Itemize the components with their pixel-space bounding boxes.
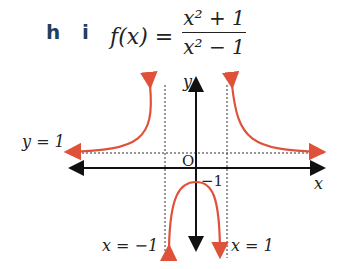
curve-right — [232, 85, 322, 152]
y-axis-label: y — [183, 72, 192, 91]
x-axis-label: x — [314, 174, 323, 193]
horizontal-asymptote-label: y = 1 — [22, 132, 65, 151]
curve-middle — [169, 182, 220, 255]
y-intercept-label: −1 — [201, 172, 223, 190]
right-asymptote-label: x = 1 — [231, 236, 274, 255]
origin-label: O — [182, 152, 194, 170]
curve-left — [68, 85, 151, 152]
left-asymptote-label: x = −1 — [102, 236, 158, 255]
asymptotes — [70, 85, 325, 258]
